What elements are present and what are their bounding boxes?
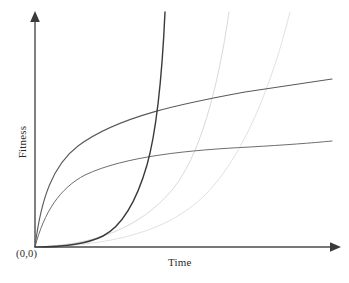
- fitness-vs-time-chart: Time Fitness (0,0): [0, 0, 349, 283]
- x-axis-arrow-icon: [330, 242, 341, 252]
- series-accelerating-light-1: [35, 12, 229, 247]
- y-axis-arrow-icon: [30, 11, 40, 22]
- series-saturating-upper: [35, 79, 332, 247]
- chart-plot-area: [0, 0, 349, 283]
- series-explosive-dark: [35, 12, 165, 247]
- origin-label: (0,0): [16, 248, 37, 259]
- series-saturating-lower: [35, 141, 332, 247]
- x-axis-label: Time: [168, 256, 192, 268]
- y-axis-label: Fitness: [16, 112, 28, 172]
